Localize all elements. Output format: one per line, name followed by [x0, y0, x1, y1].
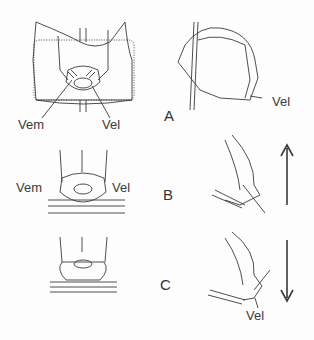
panel-a-front-drawing — [33, 22, 134, 118]
label-vem-b: Vem — [16, 181, 42, 194]
panel-c-side-drawing — [208, 232, 270, 308]
label-vel-a-front: Vel — [102, 118, 120, 131]
panel-c-front-drawing — [50, 237, 117, 292]
panel-letter-c: C — [160, 277, 171, 292]
panel-letter-b: B — [163, 187, 173, 202]
label-vel-b: Vel — [112, 181, 130, 194]
label-vel-c: Vel — [246, 309, 264, 322]
arrow-down-icon — [281, 240, 293, 301]
panel-letter-a: A — [164, 108, 174, 123]
label-vel-a-side: Vel — [272, 95, 290, 108]
diagram-figure: Vem Vel Vel A Vem Vel B C Vel — [0, 0, 314, 340]
arrow-up-icon — [281, 145, 293, 205]
panel-b-side-drawing — [212, 135, 265, 213]
panel-a-side-drawing — [178, 22, 262, 110]
label-vem-a: Vem — [18, 118, 44, 131]
line-drawing — [0, 0, 314, 340]
